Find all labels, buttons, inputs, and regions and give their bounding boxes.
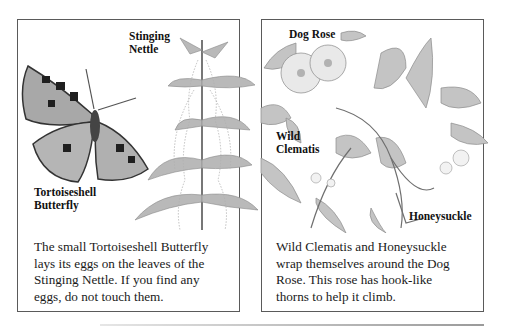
label-line: Stinging	[129, 30, 170, 43]
label-stinging-nettle: Stinging Nettle	[129, 30, 170, 55]
caption-butterfly-nettle: The small Tortoiseshell Butterfly lays i…	[34, 239, 208, 305]
label-line: Butterfly	[34, 199, 96, 212]
tortoiseshell-butterfly-illustration	[18, 64, 153, 184]
caption-line: eggs, do not touch them.	[34, 289, 208, 306]
caption-climbing-plants: Wild Clematis and Honeysuckle wrap thems…	[276, 239, 450, 305]
caption-line: Rose. This rose has hook-like	[276, 272, 450, 289]
caption-line: The small Tortoiseshell Butterfly	[34, 239, 208, 256]
label-line: Tortoiseshell	[34, 186, 96, 199]
caption-line: wrap themselves around the Dog	[276, 256, 450, 273]
label-line: Clematis	[276, 143, 319, 156]
caption-line: lays its eggs on the leaves of the	[34, 256, 208, 273]
label-line: Nettle	[129, 43, 170, 56]
caption-line: Stinging Nettle. If you find any	[34, 272, 208, 289]
label-dog-rose: Dog Rose	[289, 28, 335, 41]
label-honeysuckle: Honeysuckle	[409, 210, 472, 223]
caption-line: Wild Clematis and Honeysuckle	[276, 239, 450, 256]
label-wild-clematis: Wild Clematis	[276, 130, 319, 155]
label-line: Wild	[276, 130, 319, 143]
caption-line: thorns to help it climb.	[276, 289, 450, 306]
label-tortoiseshell-butterfly: Tortoiseshell Butterfly	[34, 186, 96, 211]
